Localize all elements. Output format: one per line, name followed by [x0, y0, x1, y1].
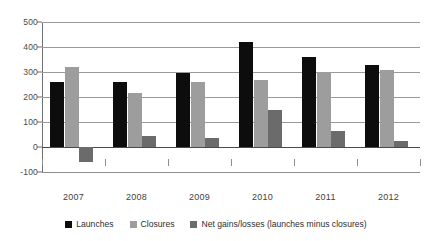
bar-net	[205, 138, 219, 147]
bar-closures	[317, 72, 331, 147]
bar-launches	[302, 57, 316, 147]
y-axis-label: 0	[4, 142, 38, 152]
x-axis-tick	[420, 159, 421, 166]
x-axis-tick	[357, 159, 358, 166]
bar-net	[394, 141, 408, 147]
legend-item[interactable]: Closures	[130, 219, 175, 229]
x-axis-label: 2008	[107, 192, 167, 202]
x-axis-label: 2011	[296, 192, 356, 202]
x-axis-label: 2012	[359, 192, 419, 202]
bar-group	[42, 22, 105, 172]
plot-area	[42, 22, 420, 172]
legend-swatch-icon	[190, 221, 197, 228]
bar-launches	[113, 82, 127, 147]
bar-launches	[365, 65, 379, 148]
bar-launches	[239, 42, 253, 147]
bar-net	[79, 147, 93, 162]
x-axis-label: 2007	[44, 192, 104, 202]
bar-closures	[65, 67, 79, 147]
y-axis-label: 500	[4, 17, 38, 27]
x-axis-tick	[105, 159, 106, 166]
bar-chart: 5004003002001000-100 2007200820092010201…	[0, 0, 432, 241]
bar-closures	[254, 80, 268, 148]
x-axis-label: 2009	[170, 192, 230, 202]
x-axis-tick	[231, 159, 232, 166]
bar-launches	[50, 82, 64, 147]
y-axis-label: 300	[4, 67, 38, 77]
legend-item[interactable]: Launches	[65, 219, 113, 229]
x-axis-tick	[168, 159, 169, 166]
bar-group	[168, 22, 231, 172]
bar-launches	[176, 73, 190, 147]
chart-legend: LaunchesClosuresNet gains/losses (launch…	[0, 219, 432, 229]
legend-label: Closures	[141, 219, 175, 229]
bar-net	[142, 136, 156, 147]
bar-net	[268, 110, 282, 148]
y-axis-label: -100	[4, 167, 38, 177]
bar-closures	[380, 70, 394, 148]
legend-label: Launches	[76, 219, 113, 229]
bar-group	[294, 22, 357, 172]
legend-label: Net gains/losses (launches minus closure…	[201, 219, 366, 229]
legend-swatch-icon	[65, 221, 72, 228]
bar-group	[357, 22, 420, 172]
bar-closures	[191, 82, 205, 147]
y-axis-label: 200	[4, 92, 38, 102]
bar-net	[331, 131, 345, 147]
bar-closures	[128, 93, 142, 147]
bar-group	[231, 22, 294, 172]
bar-group	[105, 22, 168, 172]
y-axis-label: 100	[4, 117, 38, 127]
legend-item[interactable]: Net gains/losses (launches minus closure…	[190, 219, 366, 229]
x-axis-tick	[42, 159, 43, 166]
y-axis-label: 400	[4, 42, 38, 52]
gridline	[42, 172, 420, 173]
x-axis-tick	[294, 159, 295, 166]
x-axis-label: 2010	[233, 192, 293, 202]
legend-swatch-icon	[130, 221, 137, 228]
